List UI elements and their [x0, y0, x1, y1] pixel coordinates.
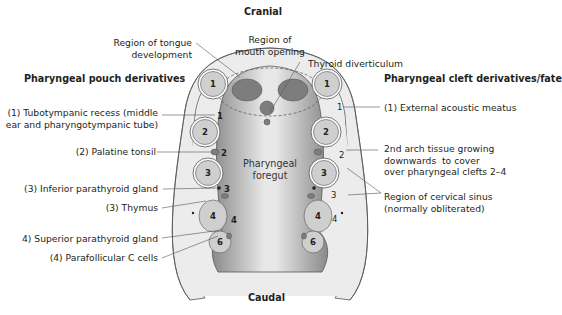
cleft-marker: 2	[339, 150, 344, 160]
arch-number: 2	[202, 127, 208, 137]
label-mouth-region: Region of mouth opening	[230, 34, 310, 57]
label-pouch-1: (1) Tubotympanic recess (middle ear and …	[0, 107, 158, 130]
label-pouch-4-c-cells: (4) Parafollicular C cells	[0, 252, 158, 264]
arch-number: 6	[310, 237, 316, 247]
arch-number: 1	[324, 79, 330, 89]
pouch-marker: 3	[224, 184, 230, 194]
label-pouch-3-parathyroid: (3) Inferior parathyroid gland	[0, 183, 158, 195]
label-cleft-2: 2nd arch tissue growing downwards to cov…	[384, 143, 506, 178]
tongue-swelling-left	[232, 79, 262, 101]
arch-number: 1	[210, 79, 216, 89]
label-pouch-2: (2) Palatine tonsil	[0, 146, 156, 158]
label-thyroid-diverticulum: Thyroid diverticulum	[308, 58, 403, 70]
cleft-marker: 3	[331, 190, 336, 200]
tongue-swelling-right	[278, 79, 308, 101]
heading-pouch-derivatives: Pharyngeal pouch derivatives	[24, 73, 185, 85]
label-tongue-region: Region of tongue development	[108, 37, 192, 60]
label-pouch-3-thymus: (3) Thymus	[0, 202, 158, 214]
orientation-caudal: Caudal	[248, 292, 285, 304]
pouch-marker: 1	[217, 111, 223, 121]
cleft-marker: 1	[337, 102, 342, 112]
label-cervical-sinus: Region of cervical sinus (normally oblit…	[384, 191, 493, 214]
arch-number: 6	[217, 237, 223, 247]
thyroid-diverticulum	[260, 101, 274, 115]
pouch-marker: 4	[231, 215, 237, 225]
orientation-cranial: Cranial	[244, 6, 282, 18]
label-pouch-4-parathyroid: 4) Superior parathyroid gland	[0, 233, 158, 245]
label-cleft-1: (1) External acoustic meatus	[384, 102, 516, 114]
arch-number: 3	[205, 168, 211, 178]
arch-number: 2	[323, 127, 329, 137]
arch-number: 4	[210, 211, 216, 221]
arch-number: 4	[315, 211, 321, 221]
pouch-marker: 2	[221, 148, 227, 158]
arch-number: 3	[321, 168, 327, 178]
heading-cleft-derivatives: Pharyngeal cleft derivatives/fate	[384, 73, 562, 85]
label-pharyngeal-foregut: Pharyngeal foregut	[232, 158, 308, 181]
cleft-marker: 4	[332, 214, 337, 224]
